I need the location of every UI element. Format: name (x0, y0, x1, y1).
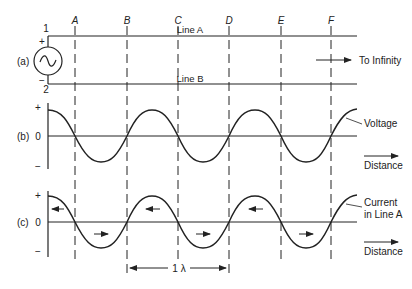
current-label-2: in Line A (364, 209, 403, 220)
plus-tick: + (35, 102, 41, 113)
wavelength-label: 1 λ (172, 263, 185, 274)
zero-tick: 0 (35, 131, 41, 142)
marker-d: D (225, 15, 232, 26)
plus-tick: + (35, 190, 41, 201)
leader-line (346, 118, 362, 124)
marker-e: E (278, 15, 285, 26)
panel-b-label: (b) (17, 131, 29, 142)
diagram-canvas: A B C D E F 1 2 + − (a) Line A Line B To… (0, 0, 412, 289)
marker-f: F (328, 15, 335, 26)
leader-line (346, 204, 362, 207)
terminal-1: 1 (43, 23, 49, 34)
to-infinity-label: To Infinity (359, 55, 401, 66)
line-b-label: Line B (177, 73, 204, 84)
zero-tick: 0 (35, 217, 41, 228)
voltage-label: Voltage (364, 118, 398, 129)
distance-label-b: Distance (364, 160, 403, 171)
plus-sign: + (39, 36, 45, 47)
minus-tick: − (35, 161, 41, 172)
panel-c-label: (c) (17, 217, 29, 228)
transmission-line-diagram: A B C D E F 1 2 + − (a) Line A Line B To… (0, 0, 412, 289)
minus-tick: − (35, 246, 41, 257)
panel-a-label: (a) (17, 56, 29, 67)
line-a-label: Line A (177, 24, 204, 35)
marker-lines (75, 26, 331, 275)
minus-sign: − (39, 75, 45, 86)
distance-label-c: Distance (364, 246, 403, 257)
current-label-1: Current (364, 197, 398, 208)
marker-b: B (124, 15, 131, 26)
marker-a: A (71, 15, 79, 26)
